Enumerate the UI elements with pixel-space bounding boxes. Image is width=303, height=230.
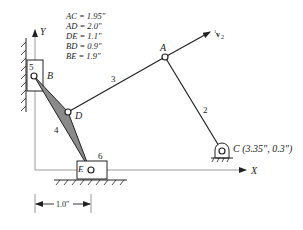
point-a-label: A bbox=[159, 42, 167, 53]
pin-c bbox=[219, 148, 225, 154]
svg-text:2: 2 bbox=[221, 34, 224, 40]
mechanism-diagram: Y X 5 B 4 D 3 1 v 2 2 A C (3.35", 0.3") bbox=[0, 0, 303, 230]
link-2-label: 2 bbox=[203, 105, 208, 115]
dimension-label: 1.0" bbox=[56, 200, 69, 209]
link-3 bbox=[68, 57, 165, 112]
ground-bottom bbox=[54, 180, 127, 185]
point-b-label: B bbox=[47, 70, 53, 81]
velocity-arrow bbox=[165, 32, 210, 57]
link-5-label: 5 bbox=[29, 62, 34, 72]
pin-a bbox=[162, 54, 168, 60]
point-d-label: D bbox=[74, 110, 83, 121]
y-axis: Y bbox=[35, 26, 47, 170]
pin-b bbox=[31, 73, 37, 79]
dimension-1in: 1.0" bbox=[35, 194, 91, 213]
link-2 bbox=[165, 57, 222, 151]
dim-be: BE = 1.9" bbox=[66, 51, 101, 61]
dim-de: DE = 1.1" bbox=[65, 31, 102, 41]
link-3-label: 3 bbox=[111, 74, 116, 84]
link-4-label: 4 bbox=[54, 125, 59, 135]
link-length-list: AC = 1.95" AD = 2.0" DE = 1.1" BD = 0.9"… bbox=[65, 11, 106, 61]
wall-ground-left bbox=[21, 38, 26, 112]
dim-bd: BD = 0.9" bbox=[66, 41, 102, 51]
pin-d bbox=[65, 109, 71, 115]
link-4 bbox=[34, 76, 90, 170]
dim-ac: AC = 1.95" bbox=[65, 11, 106, 21]
point-e-label: E bbox=[77, 164, 84, 174]
dim-ad: AD = 2.0" bbox=[65, 21, 102, 31]
point-c-label: C (3.35", 0.3") bbox=[233, 143, 293, 155]
pin-e bbox=[88, 167, 94, 173]
y-axis-label: Y bbox=[40, 26, 47, 37]
svg-text:v: v bbox=[216, 30, 220, 39]
x-axis-label: X bbox=[250, 165, 258, 176]
x-axis: X bbox=[35, 165, 258, 176]
velocity-label: 1 v 2 bbox=[214, 29, 224, 40]
link-6-label: 6 bbox=[98, 151, 103, 161]
